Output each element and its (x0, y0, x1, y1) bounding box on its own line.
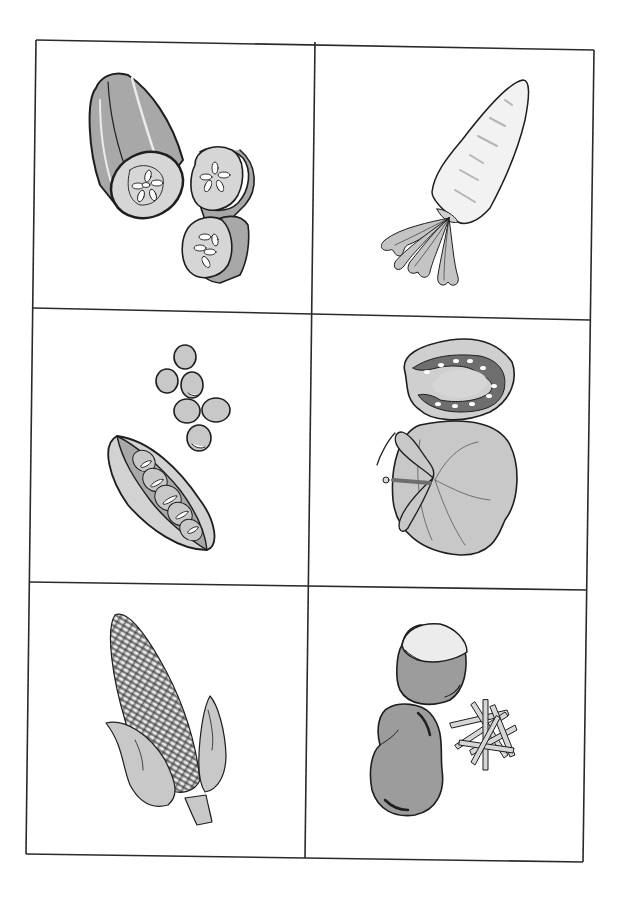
carrot-illustration (381, 80, 528, 285)
potato-illustration (370, 624, 517, 816)
vegetable-worksheet: Cucumber (whole end and slices) Carrot P… (0, 0, 619, 897)
tomato-illustration (377, 339, 517, 555)
corn-illustration (106, 614, 226, 825)
peas-illustration (108, 345, 230, 550)
cucumber-illustration (90, 73, 255, 283)
